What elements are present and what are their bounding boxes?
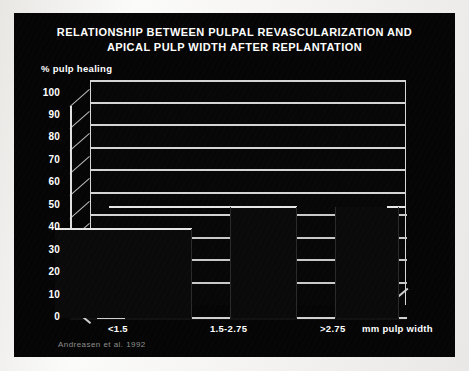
chart-plot-area: 100 90 80 70 60 50 40 30 20 10 0 <1.5 1.… bbox=[14, 13, 455, 357]
x-tick-label-2: >2.75 bbox=[320, 323, 346, 334]
y-tick-80: 80 bbox=[26, 131, 60, 142]
depth-line-100 bbox=[70, 89, 91, 107]
depth-line-80 bbox=[70, 133, 91, 151]
bar-category-1[interactable] bbox=[230, 207, 297, 318]
gridline-stub-10-c bbox=[399, 282, 407, 284]
x-tick-label-1: 1.5-2.75 bbox=[210, 323, 247, 334]
gridline-stub-20-a bbox=[297, 259, 335, 261]
floor-segment-1 bbox=[192, 317, 230, 319]
gridline-stub-10-a bbox=[297, 282, 335, 284]
gridline-60 bbox=[91, 169, 406, 171]
gridline-80 bbox=[91, 124, 406, 126]
y-tick-10: 10 bbox=[26, 289, 60, 300]
bar-top-edge-0 bbox=[55, 228, 192, 230]
floor-segment-2 bbox=[297, 317, 335, 319]
x-axis-label: mm pulp width bbox=[362, 323, 433, 334]
gridline-stub-40-a bbox=[297, 214, 335, 216]
y-tick-20: 20 bbox=[26, 266, 60, 277]
y-tick-60: 60 bbox=[26, 176, 60, 187]
bar-top-edge-2 bbox=[387, 206, 406, 208]
gridline-100 bbox=[91, 80, 406, 82]
y-tick-50: 50 bbox=[26, 199, 60, 210]
bar-right-edge-1 bbox=[296, 207, 297, 318]
x-tick-label-0: <1.5 bbox=[108, 323, 128, 334]
y-tick-40: 40 bbox=[26, 221, 60, 232]
y-tick-90: 90 bbox=[26, 109, 60, 120]
gridline-70 bbox=[91, 147, 406, 149]
y-tick-100: 100 bbox=[26, 87, 60, 98]
y-tick-30: 30 bbox=[26, 244, 60, 255]
gridline-stub-30-c bbox=[399, 237, 407, 239]
bar-right-edge-2 bbox=[398, 207, 399, 318]
depth-line-50 bbox=[70, 201, 91, 219]
gridline-stub-10-b bbox=[192, 282, 230, 284]
gridline-50 bbox=[91, 192, 406, 194]
gridline-stub-30-b bbox=[192, 237, 230, 239]
y-tick-0: 0 bbox=[26, 311, 60, 322]
presentation-slide: RELATIONSHIP BETWEEN PULPAL REVASCULARIZ… bbox=[14, 13, 455, 357]
bar-left-edge-2 bbox=[335, 207, 336, 318]
depth-line-90 bbox=[70, 111, 91, 129]
bar-category-0[interactable] bbox=[55, 229, 192, 318]
bar-left-edge-1 bbox=[230, 207, 231, 318]
slide-photo-frame: RELATIONSHIP BETWEEN PULPAL REVASCULARIZ… bbox=[0, 0, 469, 371]
gridline-stub-20-b bbox=[192, 259, 230, 261]
floor-segment-3 bbox=[399, 317, 407, 319]
depth-line-70 bbox=[70, 156, 91, 174]
y-tick-70: 70 bbox=[26, 154, 60, 165]
source-credit: Andreasen et al. 1992 bbox=[58, 340, 146, 349]
gridline-stub-30-a bbox=[297, 237, 335, 239]
bar-top-edge-1 bbox=[109, 206, 297, 208]
gridline-90 bbox=[91, 102, 406, 104]
bar-right-edge-0 bbox=[191, 229, 192, 318]
gridline-stub-40-c bbox=[399, 214, 407, 216]
depth-line-60 bbox=[70, 178, 91, 196]
bar-category-2[interactable] bbox=[335, 207, 399, 318]
gridline-stub-20-c bbox=[399, 259, 407, 261]
